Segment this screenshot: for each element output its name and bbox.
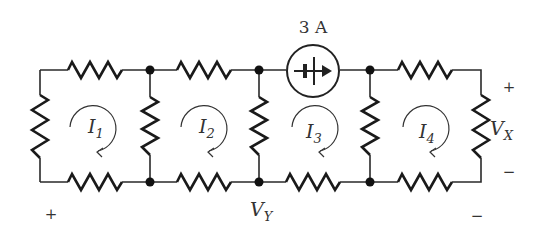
node-dot [146, 66, 155, 75]
node-dot [366, 66, 375, 75]
vx-label: VX [490, 117, 514, 143]
vx-plus: + [503, 78, 516, 96]
resistor-shunt-2 [251, 97, 267, 155]
resistor-right-vx [473, 95, 489, 158]
vy-minus: − [471, 207, 484, 225]
node-dot [255, 178, 264, 187]
current-source-3a [287, 45, 339, 97]
mesh-label-i2: I2 [198, 115, 215, 141]
nodes [146, 66, 375, 187]
vx-minus: − [503, 163, 516, 181]
resistor-bottom-1 [68, 174, 122, 190]
wires [40, 70, 481, 182]
resistor-bottom-4 [398, 174, 452, 190]
resistor-bottom-2 [177, 174, 231, 190]
mesh-label-i4: I4 [418, 120, 435, 146]
mesh-label-i1: I1 [87, 115, 104, 141]
circuit-diagram: 3 A I1 I2 I3 I4 + VX − + VY − [0, 0, 554, 237]
resistor-top-1 [68, 62, 122, 78]
resistor-shunt-1 [142, 97, 158, 155]
node-dot [146, 178, 155, 187]
node-dot [255, 66, 264, 75]
mesh-arrows [70, 106, 449, 157]
resistor-top-2 [177, 62, 231, 78]
resistor-top-4 [398, 62, 452, 78]
resistor-shunt-3 [362, 97, 378, 155]
resistor-left [32, 95, 48, 158]
vy-plus: + [45, 205, 58, 223]
source-label: 3 A [299, 17, 328, 37]
resistor-bottom-3 [286, 174, 340, 190]
vy-label: VY [250, 198, 274, 224]
node-dot [366, 178, 375, 187]
mesh-label-i3: I3 [305, 120, 322, 146]
